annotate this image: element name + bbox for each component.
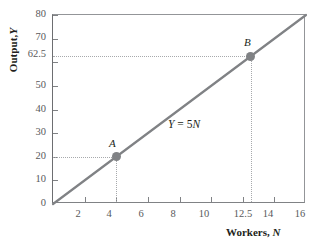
x-tick-label-12-5: 12.5 [228, 208, 258, 219]
x-tick-label-6: 6 [129, 208, 153, 219]
data-point-label-a: A [109, 137, 116, 149]
y-tick-label-62-5: 62.5 [0, 48, 46, 59]
x-axis-title-text: Workers, [226, 226, 270, 238]
equation-annotation: Y = 5N [168, 118, 200, 130]
data-point-label-b: B [244, 36, 251, 48]
x-tick-label-10: 10 [192, 208, 216, 219]
y-tick-label-50: 50 [0, 79, 46, 90]
x-axis-title-variable: N [272, 226, 280, 238]
y-tick-label-80: 80 [0, 8, 46, 19]
x-tick-label-8: 8 [161, 208, 185, 219]
equation-variable-n: N [192, 118, 200, 130]
equation-operator: = 5 [174, 118, 192, 130]
x-tick-label-4: 4 [97, 208, 121, 219]
y-tick-label-30: 30 [0, 126, 46, 137]
y-tick-label-10: 10 [0, 173, 46, 184]
plot-area: A B [52, 14, 305, 203]
y-tick-label-20: 20 [0, 150, 46, 161]
x-tick-label-2: 2 [66, 208, 90, 219]
data-point-b[interactable] [246, 52, 255, 61]
y-tick-label-0: 0 [0, 197, 46, 208]
series-line-y-equals-5n [53, 15, 306, 204]
figure-container: Output,Y Workers, N 80 70 62.5 50 40 30 … [0, 0, 322, 248]
data-point-a[interactable] [112, 152, 121, 161]
x-axis-title: Workers, N [226, 226, 280, 238]
x-tick-label-14: 14 [256, 208, 280, 219]
x-tick-label-16: 16 [288, 208, 312, 219]
y-tick-label-70: 70 [0, 31, 46, 42]
y-tick-label-40: 40 [0, 103, 46, 114]
